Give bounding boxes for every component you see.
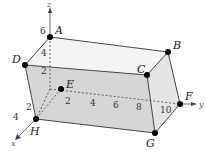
z-axis-label: z (46, 0, 52, 9)
y-axis-label: y (198, 100, 204, 109)
vertex-g-dot (152, 130, 158, 136)
vertex-b-label: B (172, 39, 181, 52)
vertex-g-label: G (146, 137, 155, 150)
vertex-h-dot (33, 116, 39, 122)
vertex-b-dot (165, 49, 171, 55)
y-tick-2: 2 (65, 96, 71, 106)
y-tick-4: 4 (90, 98, 96, 108)
vertex-f-label: F (184, 90, 193, 103)
vertex-e-dot (58, 86, 64, 92)
z-tick-2: 2 (41, 66, 47, 76)
x-tick-2: 2 (26, 102, 32, 112)
vertex-h-label: H (29, 125, 40, 138)
y-tick-10: 10 (160, 105, 172, 115)
x-tick-4: 4 (13, 112, 19, 122)
vertex-f-dot (177, 101, 183, 107)
vertex-a-dot (47, 34, 53, 40)
vertex-d-dot (22, 62, 28, 68)
3d-box-diagram: 6 4 2 2 4 6 8 10 2 4 z y x A B C D E F G… (0, 0, 206, 151)
x-axis-label: x (11, 139, 16, 148)
vertex-e-label: E (65, 78, 74, 91)
y-tick-8: 8 (136, 102, 142, 112)
vertex-a-label: A (54, 24, 63, 37)
y-tick-6: 6 (113, 100, 119, 110)
vertex-d-label: D (11, 53, 21, 66)
z-tick-4: 4 (41, 48, 47, 58)
vertex-c-label: C (137, 63, 146, 76)
z-tick-6: 6 (40, 26, 46, 36)
